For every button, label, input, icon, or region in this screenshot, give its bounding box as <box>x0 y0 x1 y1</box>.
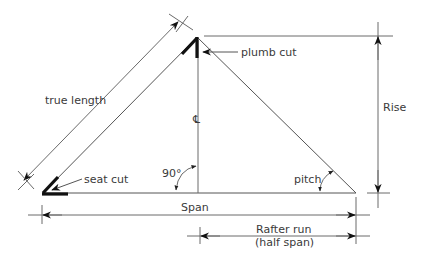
true-length-tick-bottom <box>18 171 34 189</box>
pitch-label: pitch <box>294 173 321 186</box>
seat-cut-label: seat cut <box>84 173 129 186</box>
rafter-run-sublabel: (half span) <box>255 236 314 249</box>
rise-label: Rise <box>383 101 406 114</box>
rafter-diagram: plumb cut seat cut true length ℄ 90° pit… <box>0 0 423 263</box>
true-length-label: true length <box>45 94 106 107</box>
true-length-tick-bottom-cross <box>18 174 34 190</box>
centerline-symbol: ℄ <box>192 113 200 126</box>
rafter-run-label: Rafter run <box>256 223 311 236</box>
right-angle-label: 90° <box>162 167 182 180</box>
plumb-cut-label: plumb cut <box>241 46 297 59</box>
span-label: Span <box>181 201 209 214</box>
true-length-tick-top-cross <box>176 16 188 32</box>
plumb-cut-mark <box>182 37 197 58</box>
rafter-right <box>197 37 356 193</box>
pitch-arc <box>320 171 333 191</box>
